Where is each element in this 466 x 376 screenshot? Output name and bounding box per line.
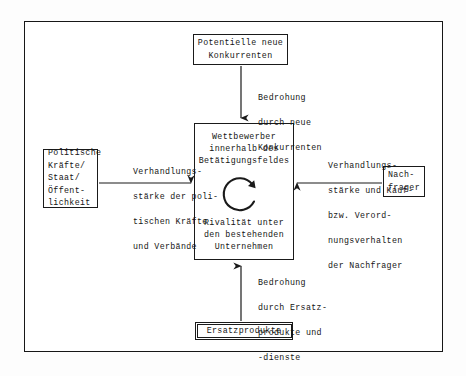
label-bargaining-power-buyers: Verhandlungs- stärke und Kauf- bzw. Vero… <box>296 148 413 285</box>
label-threat-substitutes-line-2: durch Ersatz- <box>258 303 327 312</box>
box-political-line-3: Staat/ <box>48 172 80 184</box>
box-political-line-1: Politische <box>48 147 101 159</box>
label-threat-entrants-line-1: Bedrohung <box>258 93 306 102</box>
label-buyer-power-line-2: stärke und Kauf- <box>328 186 413 195</box>
scan-artifact <box>8 112 20 120</box>
label-political-power-line-4: und Verbände <box>133 242 197 251</box>
box-political-line-5: lichkeit <box>48 197 91 209</box>
label-political-power-line-3: tischen Kräfte <box>133 217 208 226</box>
label-buyer-power-line-4: nungsverhalten <box>328 236 403 245</box>
box-new-entrants-line-1: Potentielle neue <box>198 37 283 49</box>
box-potential-new-entrants: Potentielle neue Konkurrenten <box>193 34 288 65</box>
box-political-line-2: Kräfte/ <box>48 160 85 172</box>
box-political-line-4: Öffent- <box>48 185 85 197</box>
label-threat-substitutes-line-3: produkte und <box>258 328 322 337</box>
label-buyer-power-line-3: bzw. Verord- <box>328 211 392 220</box>
box-political-forces-state-public: Politische Kräfte/ Staat/ Öffent- lichke… <box>43 149 98 208</box>
scanned-page-background: Potentielle neue Konkurrenten Wettbewerb… <box>0 0 466 376</box>
label-bargaining-power-political: Verhandlungs- stärke der poli- tischen K… <box>101 154 218 266</box>
label-buyer-power-line-1: Verhandlungs- <box>328 161 397 170</box>
circular-arrow-icon <box>221 176 267 220</box>
label-political-power-line-2: stärke der poli- <box>133 192 218 201</box>
label-threat-substitutes-line-4: -dienste <box>258 353 301 362</box>
box-new-entrants-line-2: Konkurrenten <box>209 50 273 62</box>
label-buyer-power-line-5: der Nachfrager <box>328 261 403 270</box>
label-threat-entrants-line-2: durch neue <box>258 118 311 127</box>
label-political-power-line-1: Verhandlungs- <box>133 167 202 176</box>
diagram-frame: Potentielle neue Konkurrenten Wettbewerb… <box>24 21 443 352</box>
